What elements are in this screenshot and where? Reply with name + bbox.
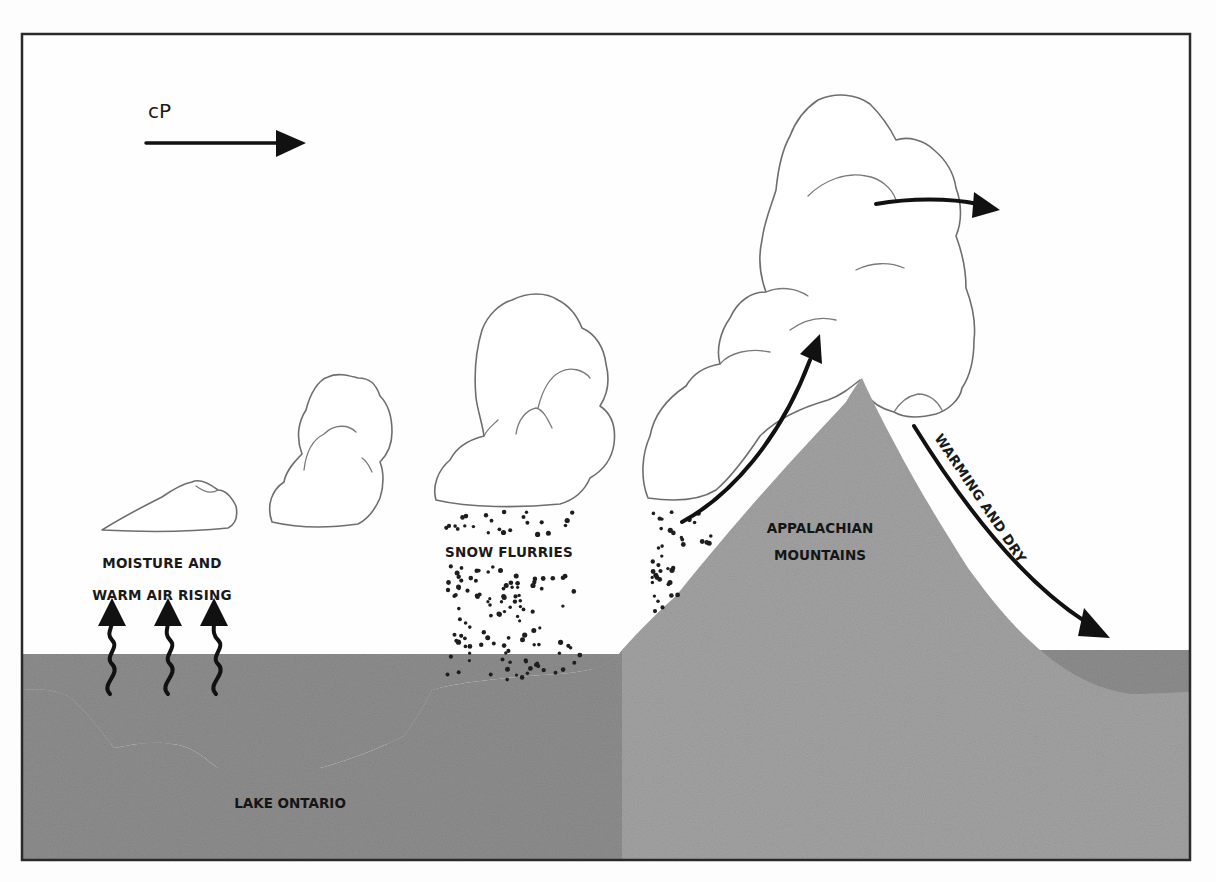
snow-dot [506,649,510,653]
snow-dot [454,593,458,597]
snow-dot [479,643,483,647]
snow-dot [531,610,535,614]
snow-dot [457,575,461,579]
snow-dot [456,640,461,645]
snow-dot [541,576,546,581]
snow-dot [485,635,490,640]
snow-dot [669,593,674,598]
snow-dot [554,671,558,675]
snow-dot [658,516,662,520]
snow-dot [540,587,544,591]
snow-dot [505,667,510,672]
snow-dot [468,652,471,655]
snow-dot [458,617,462,621]
snow-dot [516,586,519,589]
snow-dot [542,668,546,672]
snow-dot [489,614,493,618]
snow-dot [472,525,475,528]
air-mass-label: cP [148,99,171,123]
snow-dot [502,510,507,515]
snow-dot [465,589,469,593]
snow-dot [488,603,492,607]
snow-dot [492,641,496,645]
snow-dot [522,515,526,519]
snow-dot [520,637,525,642]
snow-dot [468,644,473,649]
snow-dot [453,633,457,637]
snow-dot [655,575,660,580]
snow-dot [482,630,486,634]
snow-dot [490,519,494,523]
snow-dot [540,520,544,524]
snow-dot [651,581,654,584]
mountains-label-line1: APPALACHIAN [767,520,873,536]
snow-dot [572,589,577,594]
snow-dot [572,661,576,665]
snow-dot [464,645,468,649]
snow-dot [498,568,503,573]
snow-dot [502,643,507,648]
snow-dot [446,580,451,585]
snow-dot [446,588,450,592]
snow-dot [520,675,525,680]
snow-dot [508,606,512,610]
snow-dot [680,538,684,542]
snow-dot [513,599,517,603]
snow-dot [502,595,507,600]
moisture-label-line2: WARM AIR RISING [92,587,231,603]
snow-dot [561,667,566,672]
lake-label: LAKE ONTARIO [234,795,346,811]
snow-dot [561,604,564,607]
snow-dot [468,659,471,662]
snow-dot [468,625,472,629]
snow-dot [660,544,664,548]
snow-dot [530,583,535,588]
snow-dot [460,515,465,520]
snow-dot [558,640,563,645]
snow-dot [531,628,536,633]
snow-dot [463,636,467,640]
snow-dot [501,658,505,662]
snow-dot [709,534,713,538]
snow-dot [456,585,461,590]
snow-dot [509,580,514,585]
snow-dot [533,643,536,646]
snow-dot [652,512,656,516]
snow-dot [535,661,539,665]
snow-dot [526,672,529,675]
snow-dot [496,612,501,617]
snow-dot [538,626,541,629]
snow-dot [486,570,490,574]
snow-dot [503,610,506,613]
snow-dot [515,674,518,677]
snow-dot [519,599,523,603]
snow-dot [474,579,478,583]
snow-dot [489,672,493,676]
snow-dot [457,670,461,674]
snow-dot [657,546,661,550]
snow-dot [507,636,511,640]
snow-dot [491,565,495,569]
mountains-label-line2: MOUNTAINS [774,547,866,563]
snow-dot [537,643,541,647]
snow-dot [508,528,512,532]
snow-dot [518,619,521,622]
snow-dot [486,600,489,603]
snow-dot [651,559,655,563]
snow-dot [656,563,660,567]
snow-dot [671,531,676,536]
lake-effect-diagram: cP MOISTURE AND WARM AIR RISING SNOW FLU… [0,0,1216,882]
snow-dot [498,527,502,531]
snow-dot [501,530,506,535]
snow-dot [656,600,660,604]
snow-dot [457,607,461,611]
snow-dot [488,597,491,600]
snow-dot [666,567,669,570]
snow-dot [519,605,522,608]
snow-dot [459,634,463,638]
snow-dot [514,574,519,579]
snow-dot [516,615,519,618]
snow-dot [464,621,468,625]
snow-dot [469,576,474,581]
snow-dot [670,510,674,514]
